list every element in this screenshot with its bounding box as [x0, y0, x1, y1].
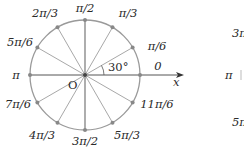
- angle-label-270: 3π/2: [72, 134, 98, 148]
- angle-label-210: 7π/6: [5, 97, 31, 111]
- angle-label-150: 5π/6: [7, 35, 33, 49]
- spoke-120: [58, 27, 86, 75]
- angle-point-270: [83, 128, 87, 132]
- angle-point-90: [83, 18, 87, 22]
- angle-point-330: [131, 101, 135, 105]
- angle-label-30: π/6: [147, 39, 167, 53]
- angle-point-150: [35, 46, 39, 50]
- angle-label-180: π: [11, 68, 20, 82]
- angle-point-180: [28, 73, 32, 77]
- angle-point-60: [111, 25, 115, 29]
- angle-label-120: 2π/3: [31, 6, 58, 20]
- angle-label-0: 0: [154, 59, 161, 73]
- angle-point-120: [56, 25, 60, 29]
- spoke-330: [85, 75, 133, 103]
- unit-circle-diagram: 0π/6π/3π/22π/35π/6π7π/64π/33π/25π/311π/6…: [0, 0, 244, 149]
- spoke-210: [37, 75, 85, 103]
- partial-label-5pi: 5π: [232, 115, 244, 129]
- partial-label-pi: π: [224, 68, 233, 82]
- spoke-300: [85, 75, 113, 123]
- angle-point-0: [138, 73, 142, 77]
- angle-arc: [102, 66, 105, 76]
- origin-point: [83, 73, 87, 77]
- partial-second-diagram: 3π π 5π: [224, 26, 244, 129]
- partial-label-3pi: 3π: [232, 26, 244, 40]
- angle-point-210: [35, 101, 39, 105]
- angle-marker-label: 30°: [108, 60, 128, 74]
- x-axis-label: x: [173, 75, 180, 89]
- angle-label-90: π/2: [75, 1, 95, 15]
- angle-point-300: [111, 121, 115, 125]
- angle-label-60: π/3: [118, 6, 138, 20]
- angle-label-330: 11π/6: [140, 97, 173, 111]
- angle-label-240: 4π/3: [28, 128, 55, 142]
- angle-point-240: [56, 121, 60, 125]
- spoke-150: [37, 48, 85, 76]
- angle-point-30: [131, 46, 135, 50]
- angle-label-300: 5π/3: [114, 128, 140, 142]
- origin-label: O: [68, 78, 77, 92]
